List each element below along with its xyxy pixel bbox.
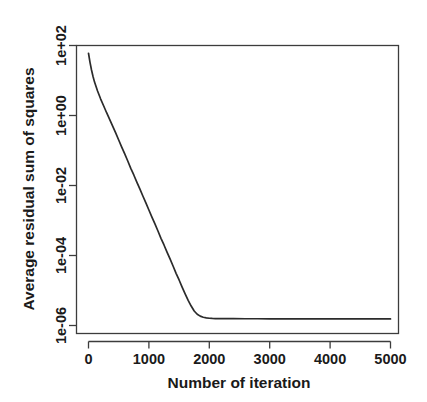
y-axis-ticks xyxy=(69,46,77,326)
x-axis-title: Number of iteration xyxy=(168,374,311,391)
y-tick-label-1e-06: 1e-06 xyxy=(53,307,69,344)
x-tick-label-2000: 2000 xyxy=(193,351,225,367)
x-tick-label-1000: 1000 xyxy=(133,351,165,367)
x-axis-tick-labels: 0 1000 2000 3000 4000 5000 xyxy=(84,351,406,367)
x-axis-ticks xyxy=(89,342,391,349)
chart-canvas: 1e+02 1e+00 1e-02 1e-04 1e-06 0 1000 200… xyxy=(0,0,427,402)
x-tick-label-3000: 3000 xyxy=(254,351,286,367)
y-tick-label-1e+00: 1e+00 xyxy=(53,95,69,136)
y-tick-label-1e+02: 1e+02 xyxy=(53,25,69,66)
chart-figure: 1e+02 1e+00 1e-02 1e-04 1e-06 0 1000 200… xyxy=(0,0,427,402)
y-axis-title: Average residual sum of squares xyxy=(20,67,37,310)
data-series-line xyxy=(89,53,391,319)
y-tick-label-1e-02: 1e-02 xyxy=(53,167,69,204)
y-tick-label-1e-04: 1e-04 xyxy=(53,237,69,274)
x-tick-label-4000: 4000 xyxy=(314,351,346,367)
x-tick-label-5000: 5000 xyxy=(374,351,406,367)
x-tick-label-0: 0 xyxy=(84,351,92,367)
plot-frame xyxy=(77,46,399,334)
y-axis-tick-labels: 1e+02 1e+00 1e-02 1e-04 1e-06 xyxy=(53,25,69,344)
